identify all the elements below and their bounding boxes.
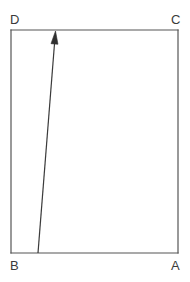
vector-shaft	[38, 42, 55, 253]
vector-arrow	[38, 31, 58, 253]
vertex-label-c: C	[171, 12, 180, 27]
vertex-label-b: B	[10, 258, 19, 273]
vertex-label-a: A	[171, 258, 180, 273]
geometry-figure-canvas: D C B A	[0, 0, 190, 282]
rectangle-abcd	[11, 30, 178, 253]
vertex-label-d: D	[10, 12, 19, 27]
geometry-diagram: D C B A	[0, 0, 190, 282]
vector-arrowhead	[51, 31, 58, 44]
